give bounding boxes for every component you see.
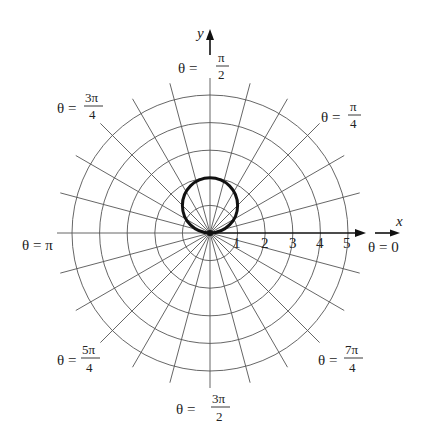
grid-ray [210,83,250,233]
svg-text:θ =: θ = [176,401,195,417]
svg-text:π: π [350,99,357,114]
svg-text:7π: 7π [345,342,359,357]
y-axis-label: y [195,25,204,41]
svg-text:2: 2 [218,67,225,82]
angle-label-3pi-2: θ = 3π 2 [176,391,230,424]
grid-ray [100,233,210,343]
tick-label: 3 [289,235,297,251]
grid-ray [100,123,210,233]
grid-ray [170,233,210,383]
svg-text:4: 4 [86,360,93,375]
grid-ray [210,156,344,234]
grid-ray [210,233,288,367]
theta-zero-arrowhead-icon [390,230,400,237]
svg-text:4: 4 [89,107,96,122]
tick-labels: 1 2 3 4 5 [233,235,351,251]
grid-ray [210,99,288,233]
angle-label-pi: θ = π [22,237,53,253]
grid-ray [133,99,211,233]
x-axis-label: x [395,213,403,229]
y-axis-arrowhead-icon [206,29,214,40]
svg-text:2: 2 [216,409,223,424]
angle-label-pi-2: θ = π 2 [178,50,229,82]
svg-text:3π: 3π [85,90,99,105]
grid-ray [60,193,210,233]
svg-text:5π: 5π [82,342,96,357]
svg-text:θ =: θ = [318,352,337,368]
grid-ray [210,193,360,233]
grid-ray [76,233,210,311]
angle-label-pi-4: θ = π 4 [321,99,361,131]
tick-label: 2 [261,235,269,251]
angle-label-7pi-4: θ = 7π 4 [318,342,363,375]
grid-ray [60,233,210,273]
tick-label: 5 [343,235,351,251]
polar-axis-arrowhead-icon [355,229,366,237]
svg-text:4: 4 [349,360,356,375]
angle-label-5pi-4: θ = 5π 4 [57,342,100,375]
angle-label-3pi-4: θ = 3π 4 [57,90,103,122]
svg-text:θ =: θ = [57,352,76,368]
svg-text:θ =: θ = [321,109,340,125]
grid-ray [210,233,250,383]
svg-text:4: 4 [350,116,357,131]
svg-text:3π: 3π [212,391,226,406]
polar-graph: y x 1 2 3 4 5 θ = 0 θ = π θ = π 2 θ = π … [0,0,423,437]
svg-text:π: π [218,50,225,65]
tick-label: 4 [316,235,324,251]
svg-text:θ =: θ = [57,100,76,116]
grid-ray [210,123,320,233]
grid-ray [170,83,210,233]
grid-ray [210,233,344,311]
grid-ray [133,233,211,367]
origin-point [207,230,213,236]
svg-text:θ =: θ = [178,60,197,76]
grid-ray [76,156,210,234]
tick-label: 1 [233,235,241,251]
angle-label-zero: θ = 0 [368,239,399,255]
